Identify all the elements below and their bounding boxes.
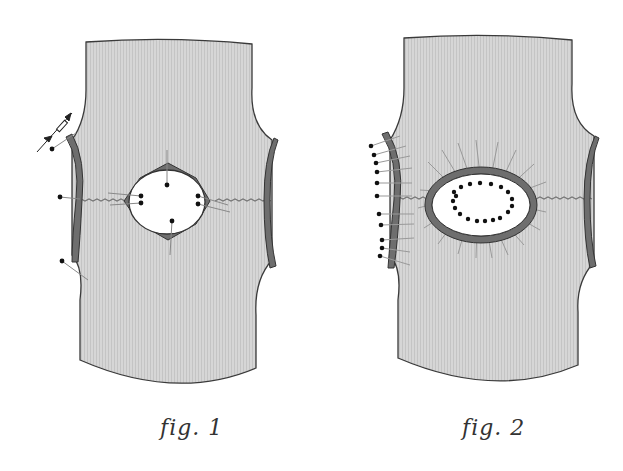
illustration-canvas	[0, 0, 623, 471]
figure-1	[37, 39, 278, 383]
edge-pin-heads-2	[369, 144, 385, 259]
figure-2	[369, 35, 599, 380]
measurement-arrows-1	[37, 113, 72, 152]
figure-2-caption: fig. 2	[462, 415, 525, 440]
figure-1-caption: fig. 1	[160, 415, 223, 440]
diagram-stage: fig. 1 fig. 2	[0, 0, 623, 471]
